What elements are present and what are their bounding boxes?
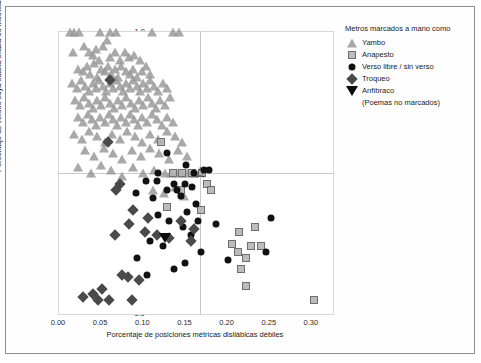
data-point-circle [163,186,170,193]
legend-item-circle[interactable]: Verso libre / sin verso [345,61,473,73]
data-point-circle [262,248,269,255]
data-point-triangle-up [73,163,83,172]
data-point-square [228,240,236,248]
data-point-triangle-up [74,28,84,37]
data-point-circle [170,265,177,272]
data-point-circle [142,178,149,185]
legend-item-diamond[interactable]: Troqueo [345,73,473,85]
legend-item-label: Anapesto [362,49,394,61]
data-point-triangle-up [160,101,170,110]
highlight-star-marker: ☆ [193,168,207,178]
legend-title: Metros marcados a mano como [345,24,473,33]
data-point-square [237,265,245,273]
data-point-triangle-up [128,163,138,172]
data-point-triangle-up [106,166,116,175]
data-point-circle [134,254,141,261]
x-tick-label: 0.00 [38,318,78,327]
data-point-square [235,228,243,236]
data-point-diamond [128,204,139,215]
data-point-square [242,254,250,262]
data-point-circle [268,215,275,222]
data-point-triangle-up [138,169,148,178]
data-point-square [178,169,186,177]
data-point-circle [184,209,191,216]
legend-note: (Poemas no marcados) [362,97,473,109]
x-tick-label: 0.30 [291,318,331,327]
data-point-circle [147,237,154,244]
data-point-square [207,186,215,194]
figure-root: Porcentaje de versos cuya cuarta sílaba … [0,0,481,363]
data-point-triangle-up [165,92,175,101]
x-tick-label: 0.25 [249,318,289,327]
data-point-circle [178,192,185,199]
diamond-icon [345,73,359,85]
data-point-triangle-up [174,28,184,37]
y-axis-label: Porcentaje de versos cuya cuarta sílaba … [0,0,3,172]
plot-area: ☆ [58,31,334,315]
data-point-triangle-up [115,135,125,144]
data-point-diamond [123,218,134,229]
data-point-square [242,282,250,290]
data-point-diamond [139,227,150,238]
data-point-circle [150,195,157,202]
data-point-circle [183,161,190,168]
legend: Metros marcados a mano como YamboAnapest… [345,24,473,109]
data-point-square [157,138,165,146]
data-point-triangle-down [159,233,171,243]
legend-item-label: Anfíbraco [362,85,394,97]
triangle-down-icon [345,85,359,97]
data-point-diamond [110,229,121,240]
data-point-triangle-up [86,169,96,178]
data-point-circle [170,181,177,188]
square-icon [345,49,359,61]
triangle-up-icon [345,37,359,49]
data-point-triangle-up [182,152,192,161]
data-point-circle [212,220,219,227]
legend-entries: YamboAnapestoVerso libre / sin versoTroq… [345,37,473,97]
x-tick-label: 0.20 [207,318,247,327]
data-point-triangle-up [147,28,157,37]
legend-item-label: Troqueo [362,73,390,85]
data-point-triangle-up [68,47,78,56]
data-point-triangle-up [136,152,146,161]
data-point-circle [155,170,162,177]
x-tick-label: 0.15 [164,318,204,327]
data-point-circle [155,212,162,219]
data-point-triangle-up [96,160,106,169]
data-point-circle [159,243,166,250]
data-point-circle [143,271,150,278]
legend-item-triangle-up[interactable]: Yambo [345,37,473,49]
data-point-circle [163,150,170,157]
data-point-square [163,203,171,211]
scatter-canvas: ☆ [59,32,333,314]
data-point-circle [153,178,160,185]
legend-item-triangle-down[interactable]: Anfíbraco [345,85,473,97]
data-point-diamond [122,272,133,283]
data-point-circle [197,248,204,255]
data-point-square [234,248,242,256]
circle-icon [345,61,359,73]
x-axis-label: Porcentaje de posiciones métricas disilá… [58,330,332,339]
legend-item-label: Yambo [362,37,385,49]
data-point-triangle-up [77,135,87,144]
data-point-triangle-up [102,36,112,45]
data-point-circle [224,257,231,264]
data-point-diamond [126,294,137,305]
x-tick-label: 0.10 [122,318,162,327]
data-point-circle [182,260,189,267]
data-point-square [251,223,259,231]
data-point-circle [189,184,196,191]
data-point-circle [132,189,139,196]
data-point-circle [166,217,173,224]
data-point-triangle-up [117,154,127,163]
data-point-triangle-up [111,28,121,37]
data-point-triangle-up [142,118,152,127]
data-point-circle [195,217,202,224]
data-point-square [169,169,177,177]
data-point-triangle-up [148,185,158,194]
legend-item-square[interactable]: Anapesto [345,49,473,61]
x-tick-label: 0.05 [80,318,120,327]
data-point-square [247,242,255,250]
data-point-square [310,296,318,304]
data-point-circle [193,201,200,208]
